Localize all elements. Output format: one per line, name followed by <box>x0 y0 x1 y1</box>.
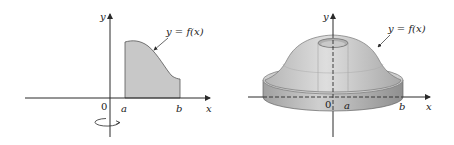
shaded-region <box>125 41 180 98</box>
b-label: b <box>399 101 405 112</box>
curve-leader-line <box>154 38 168 50</box>
x-axis-label: x <box>426 101 432 112</box>
curve-label: y = f(x) <box>165 26 204 37</box>
curve-label: y = f(x) <box>387 23 426 34</box>
solid-of-revolution-figure: y x 0 a b y = f(x) <box>0 0 454 145</box>
a-label: a <box>121 103 127 114</box>
y-axis-label: y <box>322 11 329 22</box>
a-label: a <box>344 100 350 111</box>
rotation-arrow-icon <box>95 119 120 127</box>
right-panel: y x 0 a b y = f(x) <box>248 11 432 137</box>
origin-label: 0 <box>101 101 107 112</box>
x-axis-label: x <box>206 103 212 114</box>
left-panel: y x 0 a b y = f(x) <box>25 11 212 137</box>
b-label: b <box>176 103 182 114</box>
origin-label: 0 <box>325 99 331 110</box>
curve-leader-line <box>378 35 390 47</box>
y-axis-label: y <box>99 11 106 22</box>
